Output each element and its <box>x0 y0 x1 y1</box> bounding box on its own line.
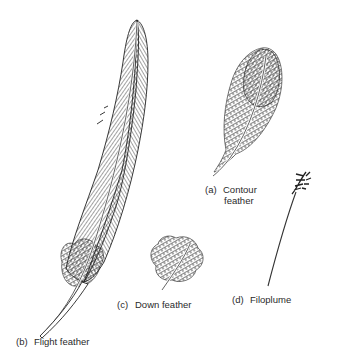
label-text: Filoplume <box>250 294 291 305</box>
label-text: Contour <box>223 184 257 195</box>
feather-types-figure: (a)Contour feather (b)Flight feather (c)… <box>0 0 342 356</box>
label-letter: (b) <box>16 336 34 347</box>
contour-feather-drawing <box>213 48 282 176</box>
label-letter: (c) <box>117 299 135 310</box>
label-letter: (a) <box>205 184 223 195</box>
label-text: Flight feather <box>34 336 89 347</box>
flight-feather-drawing <box>40 20 148 338</box>
label-filoplume: (d)Filoplume <box>232 294 291 305</box>
label-down-feather: (c)Down feather <box>117 299 192 310</box>
label-flight-feather: (b)Flight feather <box>16 336 89 347</box>
label-contour-feather: (a)Contour feather <box>205 184 257 206</box>
label-text-line2: feather <box>205 195 257 206</box>
down-feather-drawing <box>151 236 203 290</box>
label-text: Down feather <box>135 299 192 310</box>
label-letter: (d) <box>232 294 250 305</box>
filoplume-drawing <box>268 172 311 286</box>
